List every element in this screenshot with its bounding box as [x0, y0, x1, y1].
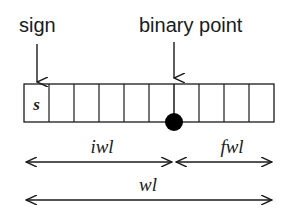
bit-register: s	[24, 84, 274, 131]
fixed-point-format-diagram: sign binary point s iwl fwl wl	[0, 0, 293, 218]
binary-point-dot-icon	[165, 113, 183, 131]
sign-label: sign	[19, 14, 56, 36]
fwl-label: fwl	[220, 136, 243, 157]
wl-label: wl	[139, 174, 157, 195]
binary-point-label: binary point	[139, 14, 243, 36]
sign-bit-label: s	[32, 95, 40, 114]
iwl-label: iwl	[90, 136, 113, 157]
cell-dividers	[49, 84, 249, 122]
